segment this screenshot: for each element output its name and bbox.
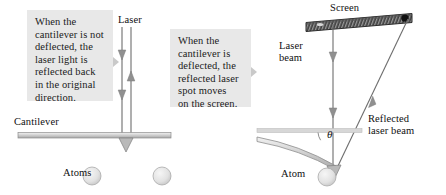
label-cantilever: Cantilever [14,116,59,128]
right-cantilever-bent [257,137,336,170]
afm-laser-deflection-figure: When the cantilever is not deflected, th… [0,0,446,195]
screen-bar [306,14,412,32]
callout-tip-left-icon [113,57,119,67]
left-reflected-arrowhead [127,71,135,81]
label-reflected-laser-beam: Reflected laser beam [368,113,414,138]
label-deflection-angle-theta: θ [327,128,333,140]
angle-arc [318,133,321,141]
right-cantilever-tip [327,165,341,180]
screen-spot-original [317,23,323,26]
atom-circle [318,168,336,186]
right-incident-arrowhead-upper [329,52,337,62]
label-laser-beam: Laser beam [279,40,303,65]
atom-circle [153,167,171,185]
right-reflected-arrowhead [369,96,376,107]
left-incident-arrowhead-lower [118,90,126,100]
right-reflected-beam-line [337,19,408,168]
label-atoms: Atoms [63,167,92,179]
label-atom: Atom [281,168,305,180]
reference-level-line [257,129,362,133]
callout-tip-right-icon [251,67,257,77]
label-laser: Laser [118,14,142,26]
callout-box-deflected: When the cantilever is deflected, the re… [170,29,251,107]
callout-box-undeflected: When the cantilever is not deflected, th… [27,10,113,101]
label-screen: Screen [330,2,359,14]
screen-spot-deflected [401,15,408,22]
right-incident-arrowhead-lower [329,108,337,118]
left-incident-arrowhead-upper [118,50,126,60]
left-cantilever-bar [18,133,171,139]
left-cantilever-tip [119,138,133,152]
